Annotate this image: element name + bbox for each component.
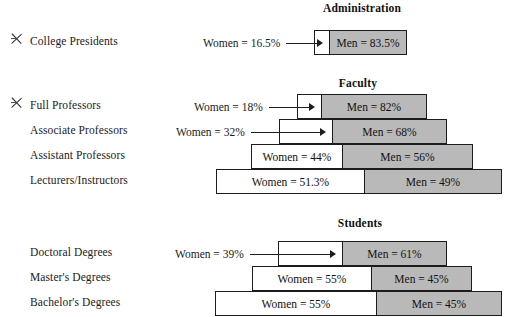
row-label-doctoral-degrees: Doctoral Degrees	[30, 246, 112, 258]
bar-women-assistant-professors: Women = 44%	[251, 144, 343, 169]
bar-men-college-presidents: Men = 83.5%	[329, 30, 407, 55]
bar-men-label-assistant-professors: Men = 56%	[380, 151, 434, 163]
leader-line-college-presidents	[286, 43, 317, 44]
bar-men-bachelors-degrees: Men = 45%	[376, 291, 502, 316]
check-mark-icon	[10, 96, 24, 110]
bar-men-doctoral-degrees: Men = 61%	[342, 241, 447, 266]
row-label-bachelors-degrees: Bachelor's Degrees	[30, 296, 120, 308]
leader-arrowhead-associate-professors	[320, 128, 326, 136]
bar-men-label-bachelors-degrees: Men = 45%	[412, 298, 466, 310]
section-title-students: Students	[338, 217, 382, 229]
row-label-lecturers-instructors: Lecturers/Instructors	[30, 174, 128, 186]
leader-line-associate-professors	[251, 132, 320, 133]
bar-women-bachelors-degrees: Women = 55%	[215, 291, 377, 316]
row-label-associate-professors: Associate Professors	[30, 124, 128, 136]
leader-arrowhead-full-professors	[309, 103, 315, 111]
external-women-label-associate-professors: Women = 32%	[176, 126, 245, 138]
section-title-administration: Administration	[323, 2, 401, 14]
leader-arrowhead-college-presidents	[317, 39, 323, 47]
bar-men-label-associate-professors: Men = 68%	[362, 126, 416, 138]
bar-men-full-professors: Men = 82%	[321, 94, 427, 119]
external-women-label-college-presidents: Women = 16.5%	[203, 37, 280, 49]
bar-men-masters-degrees: Men = 45%	[371, 266, 472, 291]
bar-men-label-full-professors: Men = 82%	[347, 101, 401, 113]
bar-women-label-assistant-professors: Women = 44%	[263, 151, 332, 163]
bar-men-associate-professors: Men = 68%	[332, 119, 447, 144]
bar-women-label-masters-degrees: Women = 55%	[278, 273, 347, 285]
bar-men-lecturers-instructors: Men = 49%	[364, 169, 502, 194]
bar-women-label-bachelors-degrees: Women = 55%	[262, 298, 331, 310]
external-women-label-full-professors: Women = 18%	[194, 101, 263, 113]
bar-women-label-lecturers-instructors: Women = 51.3%	[252, 176, 329, 188]
leader-arrowhead-doctoral-degrees	[330, 250, 336, 258]
bar-men-assistant-professors: Men = 56%	[342, 144, 473, 169]
section-title-faculty: Faculty	[339, 77, 377, 89]
row-label-full-professors: Full Professors	[30, 99, 101, 111]
row-label-college-presidents: College Presidents	[30, 35, 118, 47]
bar-women-masters-degrees: Women = 55%	[252, 266, 372, 291]
figure-canvas: AdministrationFacultyStudentsCollege Pre…	[0, 0, 524, 317]
bar-men-label-college-presidents: Men = 83.5%	[336, 37, 399, 49]
row-label-assistant-professors: Assistant Professors	[30, 149, 125, 161]
leader-line-doctoral-degrees	[250, 254, 330, 255]
bar-men-label-masters-degrees: Men = 45%	[394, 273, 448, 285]
bar-men-label-lecturers-instructors: Men = 49%	[406, 176, 460, 188]
row-label-masters-degrees: Master's Degrees	[30, 271, 111, 283]
bar-men-label-doctoral-degrees: Men = 61%	[367, 248, 421, 260]
bar-women-lecturers-instructors: Women = 51.3%	[216, 169, 365, 194]
leader-line-full-professors	[269, 107, 309, 108]
check-mark-icon	[10, 32, 24, 46]
external-women-label-doctoral-degrees: Women = 39%	[175, 248, 244, 260]
